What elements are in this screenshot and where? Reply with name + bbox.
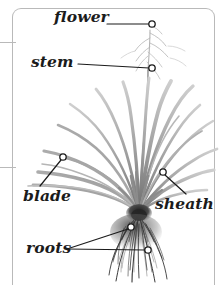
- callout-label-blade: blade: [23, 188, 71, 204]
- figure-panel: flower stem blade sheath roots: [0, 0, 223, 285]
- callout-label-stem: stem: [31, 54, 74, 70]
- callout-label-sheath: sheath: [155, 196, 214, 212]
- callout-label-roots: roots: [26, 240, 71, 256]
- callout-label-flower: flower: [54, 9, 109, 25]
